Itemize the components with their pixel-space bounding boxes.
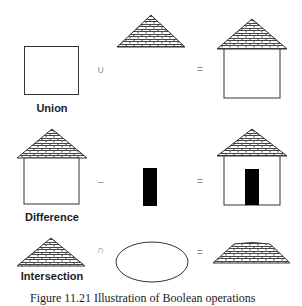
square-shape bbox=[24, 46, 80, 96]
house-with-door-result-shape bbox=[216, 128, 288, 210]
equals-sign: = bbox=[197, 247, 203, 258]
union-operator-icon: ∪ bbox=[97, 64, 104, 75]
intersection-label: Intersection bbox=[12, 270, 92, 282]
house-result-shape bbox=[216, 18, 288, 100]
difference-label: Difference bbox=[12, 211, 92, 223]
equals-sign: = bbox=[197, 176, 203, 187]
equals-sign: = bbox=[197, 64, 203, 75]
intersection-operator-icon: ∩ bbox=[97, 244, 104, 255]
truncated-roof-result-shape bbox=[212, 241, 292, 265]
ellipse-shape bbox=[115, 241, 189, 283]
difference-operator-icon: – bbox=[98, 176, 104, 187]
roof-triangle-shape bbox=[16, 237, 86, 267]
union-label: Union bbox=[20, 102, 84, 114]
house-shape bbox=[16, 128, 88, 210]
black-door-shape bbox=[143, 168, 157, 206]
figure-caption: Figure 11.21 Illustration of Boolean ope… bbox=[30, 291, 256, 306]
roof-triangle-shape bbox=[116, 14, 186, 48]
